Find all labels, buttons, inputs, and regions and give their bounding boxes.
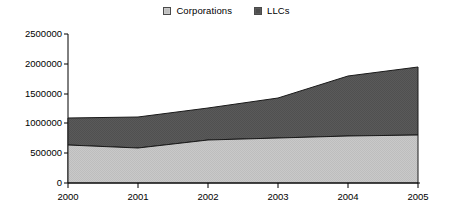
x-tick-label: 2001 xyxy=(127,191,148,202)
plot-svg: 2500000 2000000 1500000 1000000 500000 0 xyxy=(0,0,453,211)
y-tick-label: 0 xyxy=(57,177,62,188)
x-tick-label: 2005 xyxy=(407,191,428,202)
x-tick-label: 2004 xyxy=(337,191,358,202)
data-areas xyxy=(68,67,418,183)
y-tick-label: 1000000 xyxy=(25,117,62,128)
stacked-area-chart: Corporations LLCs xyxy=(0,0,453,211)
x-tick-label: 2002 xyxy=(197,191,218,202)
x-tick-label: 2000 xyxy=(57,191,78,202)
x-axis xyxy=(68,183,420,188)
y-axis xyxy=(64,34,68,183)
plot-area: 2500000 2000000 1500000 1000000 500000 0 xyxy=(0,0,453,211)
x-tick-label: 2003 xyxy=(267,191,288,202)
y-tick-label: 500000 xyxy=(30,147,62,158)
x-tick-labels: 2000 2001 2002 2003 2004 2005 xyxy=(57,191,428,202)
y-tick-label: 1500000 xyxy=(25,88,62,99)
y-tick-label: 2500000 xyxy=(25,28,62,39)
y-tick-labels: 2500000 2000000 1500000 1000000 500000 0 xyxy=(25,28,62,188)
y-tick-label: 2000000 xyxy=(25,58,62,69)
